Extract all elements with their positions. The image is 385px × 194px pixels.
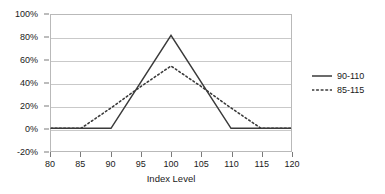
legend-line-swatch-icon	[312, 85, 332, 95]
legend-item-label: 90-110	[337, 71, 364, 81]
x-tick-label: 90	[105, 160, 115, 169]
y-tick-mark	[44, 106, 49, 107]
x-tick-mark	[201, 152, 202, 157]
y-tick-mark	[44, 129, 49, 130]
x-tick-label: 95	[136, 160, 146, 169]
x-tick-label: 80	[45, 160, 55, 169]
chart-legend: 90-11085-115	[312, 69, 384, 97]
x-tick-label: 115	[255, 160, 269, 169]
x-tick-label: 100	[163, 160, 178, 169]
series-line-90-110	[51, 35, 291, 128]
legend-line-swatch-icon	[312, 71, 332, 81]
y-axis: -20%0%20%40%60%80%100%	[0, 14, 44, 152]
legend-item-label: 85-115	[337, 85, 364, 95]
x-tick-mark	[111, 152, 112, 157]
y-tick-mark	[44, 152, 49, 153]
y-tick-mark	[44, 60, 49, 61]
y-tick-label: 0%	[25, 125, 38, 134]
x-tick-label: 110	[224, 160, 238, 169]
y-tick-mark	[44, 83, 49, 84]
legend-item[interactable]: 90-110	[312, 69, 384, 83]
y-tick-label: 20%	[20, 102, 38, 111]
series-layer	[51, 15, 291, 151]
x-tick-mark	[292, 152, 293, 157]
x-tick-label: 105	[194, 160, 209, 169]
y-tick-label: 60%	[20, 56, 38, 65]
x-tick-mark	[50, 152, 51, 157]
plot-area	[50, 14, 292, 152]
y-tick-mark	[44, 14, 49, 15]
x-axis-title: Index Level	[50, 173, 292, 184]
x-tick-label: 120	[284, 160, 299, 169]
x-tick-mark	[232, 152, 233, 157]
legend-item[interactable]: 85-115	[312, 83, 384, 97]
x-axis: 80859095100105110115120	[50, 152, 292, 174]
y-tick-label: -20%	[17, 148, 38, 157]
x-tick-mark	[80, 152, 81, 157]
x-tick-label: 85	[75, 160, 85, 169]
x-tick-mark	[262, 152, 263, 157]
y-tick-label: 40%	[20, 79, 38, 88]
line-chart-figure: -20%0%20%40%60%80%100% 80859095100105110…	[0, 0, 385, 194]
y-tick-label: 100%	[15, 10, 38, 19]
x-tick-mark	[171, 152, 172, 157]
y-tick-mark	[44, 37, 49, 38]
y-tick-label: 80%	[20, 33, 38, 42]
x-tick-mark	[141, 152, 142, 157]
series-line-85-115	[51, 66, 291, 128]
